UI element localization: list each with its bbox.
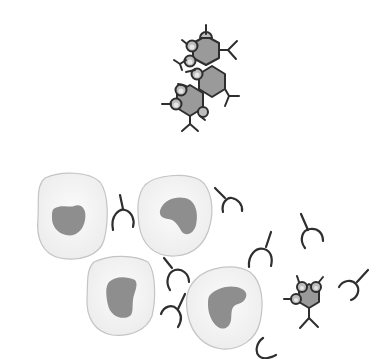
antibody-icon [161, 294, 185, 327]
cell-icon [186, 267, 262, 349]
antibody-icon [257, 338, 276, 358]
antibody-icon [339, 270, 368, 300]
diagram-canvas [0, 0, 384, 359]
antigen-hexagon-icon [193, 36, 219, 65]
antibody-icon [164, 258, 189, 290]
antibody-icon [301, 214, 323, 248]
cell-icon [138, 175, 212, 256]
cell-icon [38, 173, 108, 259]
cell-icon [87, 256, 155, 335]
antibody-icon [215, 188, 242, 212]
antibody-icon [112, 195, 133, 230]
antigen-antibody-complex [162, 25, 239, 131]
antibody-icon [249, 232, 272, 267]
immunology-diagram [0, 0, 384, 359]
small-antigen-icon [284, 276, 323, 328]
